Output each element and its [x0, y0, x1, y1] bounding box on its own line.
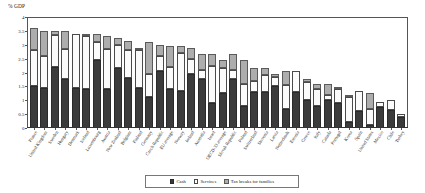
bar-segment-tax: [30, 28, 38, 50]
bar-segment-cash: [387, 110, 395, 128]
stacked-bar: [376, 102, 384, 128]
x-axis-label-slot: Korea: [344, 130, 355, 174]
stacked-bar: [324, 84, 332, 128]
bar-segment-tax: [93, 34, 101, 42]
bar-slot: [260, 17, 271, 128]
legend-label: Cash: [176, 179, 185, 184]
bar-slot: [197, 17, 208, 128]
bar-segment-services: [282, 85, 290, 109]
y-axis-tick-mark: [25, 128, 27, 129]
bar-segment-services: [219, 68, 227, 93]
x-axis-label-slot: United Kingdom: [39, 130, 50, 174]
bar-group: [27, 17, 408, 128]
bar-segment-cash: [30, 86, 38, 128]
bar-segment-tax: [324, 84, 332, 95]
bar-segment-services: [355, 91, 363, 112]
bar-segment-services: [135, 50, 143, 87]
x-axis-label-slot: Norway: [176, 130, 187, 174]
y-axis-unit-label: % GDP: [8, 3, 25, 9]
bar-segment-cash: [240, 106, 248, 128]
x-axis-label-slot: Belgium: [123, 130, 134, 174]
bar-slot: [375, 17, 386, 128]
stacked-bar: [166, 46, 174, 128]
bar-segment-cash: [198, 79, 206, 128]
bar-segment-services: [261, 75, 269, 92]
bar-segment-tax: [250, 68, 258, 80]
bar-segment-cash: [156, 71, 164, 128]
chart-legend: CashServicesTax breaks for families: [145, 175, 299, 188]
bar-segment-cash: [114, 68, 122, 128]
bar-segment-tax: [103, 36, 111, 48]
bar-segment-services: [30, 50, 38, 86]
bar-slot: [123, 17, 134, 128]
bar-segment-cash: [187, 74, 195, 128]
x-axis-label-slot: Switzerland: [249, 130, 260, 174]
bar-slot: [60, 17, 71, 128]
bar-segment-services: [229, 70, 237, 80]
bar-segment-cash: [208, 103, 216, 128]
bar-slot: [50, 17, 61, 128]
bar-segment-cash: [229, 79, 237, 128]
bar-segment-tax: [219, 60, 227, 68]
x-axis-tick-label: Korea: [343, 130, 353, 142]
bar-segment-cash: [103, 89, 111, 128]
x-axis-label-slot: EU average: [165, 130, 176, 174]
bar-segment-tax: [166, 46, 174, 67]
bar-segment-cash: [145, 97, 153, 128]
x-axis-label-slot: Luxembourg: [92, 130, 103, 174]
x-axis-label-slot: Ireland: [186, 130, 197, 174]
bar-segment-services: [145, 74, 153, 98]
stacked-bar: [240, 60, 248, 128]
bar-segment-services: [387, 100, 395, 110]
bar-segment-services: [250, 81, 258, 92]
bar-segment-tax: [61, 31, 69, 49]
bar-segment-tax: [40, 31, 48, 56]
bar-slot: [270, 17, 281, 128]
stacked-bar: [250, 68, 258, 128]
stacked-bar: [313, 84, 321, 128]
bar-segment-cash: [282, 109, 290, 128]
bar-segment-services: [303, 82, 311, 100]
x-axis-label-slot: Portugal: [333, 130, 344, 174]
stacked-bar: [30, 28, 38, 128]
bar-segment-services: [198, 70, 206, 80]
bar-segment-services: [40, 56, 48, 88]
bar-segment-cash: [82, 89, 90, 128]
bar-segment-tax: [261, 68, 269, 75]
x-axis-label-slot: Sweden: [50, 130, 61, 174]
bar-segment-services: [313, 89, 321, 106]
bar-segment-services: [103, 49, 111, 89]
bar-segment-services: [177, 53, 185, 90]
x-axis-labels: FranceUnited KingdomSwedenHungaryDenmark…: [27, 130, 408, 174]
x-axis-label-slot: Chile: [386, 130, 397, 174]
bar-slot: [29, 17, 40, 128]
stacked-bar: [292, 71, 300, 128]
bar-segment-cash: [166, 89, 174, 128]
x-axis-tick-label: Mexico: [373, 130, 385, 144]
bar-segment-cash: [219, 93, 227, 128]
x-axis-label-slot: New Zealand: [113, 130, 124, 174]
bar-slot: [228, 17, 239, 128]
bar-segment-services: [208, 66, 216, 103]
bar-segment-cash: [61, 79, 69, 128]
stacked-bar: [303, 79, 311, 128]
bar-slot: [323, 17, 334, 128]
bar-segment-services: [166, 67, 174, 89]
x-axis-label-slot: Netherlands: [281, 130, 292, 174]
bar-segment-tax: [187, 48, 195, 59]
x-axis-label-slot: Finland: [134, 130, 145, 174]
legend-swatch-services-icon: [194, 179, 198, 183]
bar-segment-tax: [114, 38, 122, 45]
bar-segment-services: [61, 49, 69, 80]
stacked-bar: [198, 54, 206, 128]
bar-segment-services: [124, 50, 132, 78]
bar-segment-cash: [324, 100, 332, 128]
bar-slot: [39, 17, 50, 128]
stacked-bar: [51, 31, 59, 128]
stacked-bar: [271, 74, 279, 128]
x-axis-label-slot: Estonia: [291, 130, 302, 174]
stacked-bar: [387, 100, 395, 128]
bar-slot: [176, 17, 187, 128]
x-axis-label-slot: Slovak Republic: [228, 130, 239, 174]
x-axis-label-slot: Denmark: [71, 130, 82, 174]
